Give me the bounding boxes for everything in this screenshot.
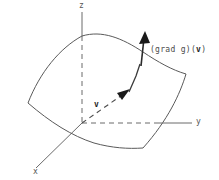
y-axis-label: y <box>196 118 201 126</box>
tangent-vector-label: v <box>94 101 99 109</box>
riser-to-surface <box>129 64 140 92</box>
x-axis-label: x <box>33 168 38 176</box>
gradient-arrow-arrowhead <box>139 31 150 44</box>
gradient-functional-label: (grad g)(v) <box>150 46 206 54</box>
tangent-vector-shaft <box>82 93 125 123</box>
gradient-label-prefix: (grad g)( <box>150 45 196 54</box>
gradient-label-suffix: ) <box>201 45 206 54</box>
figure-canvas <box>0 0 219 180</box>
tangent-vector-arrowhead <box>117 89 130 100</box>
gradient-surface-figure: z y x v (grad g)(v) <box>0 0 219 180</box>
surface-edge-right <box>143 74 186 148</box>
z-axis-label: z <box>79 2 84 10</box>
surface-edge-left <box>28 36 82 103</box>
surface-edge-bottom-front <box>28 103 143 148</box>
x-axis <box>36 123 82 168</box>
